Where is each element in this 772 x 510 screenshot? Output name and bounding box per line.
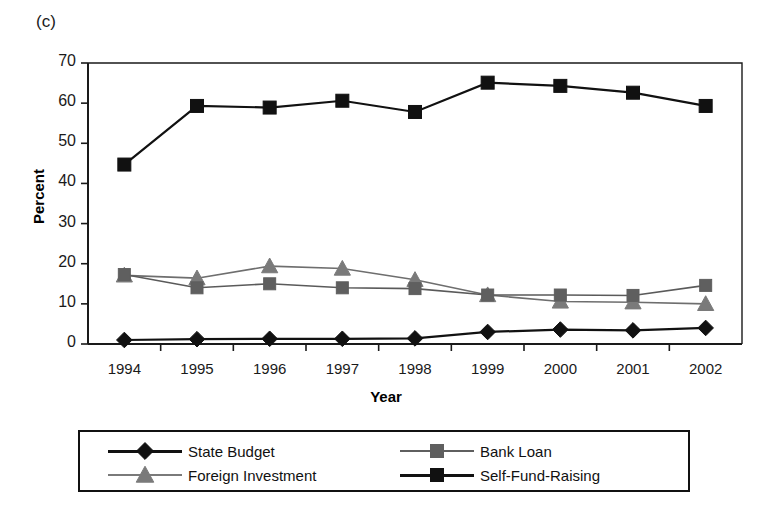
data-point-square [409, 105, 422, 118]
legend-item[interactable]: Self-Fund-Raising [400, 462, 600, 488]
x-tick-label: 1996 [240, 360, 300, 377]
data-point-square [482, 289, 494, 301]
x-tick-label: 1994 [94, 360, 154, 377]
data-point-square [627, 86, 640, 99]
x-tick-label: 1998 [385, 360, 445, 377]
legend-marker-square-icon [400, 465, 474, 485]
x-tick-label: 1995 [167, 360, 227, 377]
legend-marker-glyph [135, 441, 155, 461]
legend-marker-triangle-icon [108, 465, 182, 485]
x-tick-label: 2001 [603, 360, 663, 377]
data-point-diamond [137, 443, 154, 460]
data-point-diamond [698, 320, 714, 336]
y-tick-label: 50 [30, 132, 76, 150]
x-axis-title: Year [0, 388, 772, 405]
chart-figure: (c) Percent Year 010203040506070 1994199… [0, 0, 772, 510]
data-point-square [263, 101, 276, 114]
data-point-square [118, 158, 131, 171]
y-tick-label: 40 [30, 172, 76, 190]
data-point-triangle [262, 258, 278, 273]
legend-label: Bank Loan [480, 443, 552, 460]
data-point-diamond [553, 322, 569, 338]
y-axis-title: Percent [30, 137, 47, 257]
legend-item[interactable]: Bank Loan [400, 438, 552, 464]
y-tick-label: 30 [30, 213, 76, 231]
series-line [124, 83, 705, 165]
data-point-square [699, 99, 712, 112]
legend-marker-square-icon [400, 441, 474, 461]
y-tick-label: 60 [30, 92, 76, 110]
legend-label: State Budget [188, 443, 275, 460]
data-point-square [627, 289, 639, 301]
legend-label: Foreign Investment [188, 467, 316, 484]
series-self-fund-raising [118, 76, 712, 171]
panel-label: (c) [36, 12, 56, 32]
data-point-square [336, 282, 348, 294]
data-point-diamond [480, 324, 496, 340]
data-point-square [481, 76, 494, 89]
y-tick-label: 10 [30, 293, 76, 311]
data-point-square [336, 94, 349, 107]
legend-item[interactable]: Foreign Investment [108, 462, 316, 488]
legend-marker-glyph [135, 465, 155, 485]
data-point-diamond [117, 332, 133, 348]
data-point-square [409, 283, 421, 295]
y-tick-label: 0 [30, 333, 76, 351]
data-point-square [118, 269, 130, 281]
legend-label: Self-Fund-Raising [480, 467, 600, 484]
x-tick-label: 1999 [458, 360, 518, 377]
data-point-triangle [136, 466, 154, 482]
legend-marker-glyph [427, 441, 447, 461]
legend-marker-glyph [427, 465, 447, 485]
data-point-square [431, 469, 444, 482]
legend-marker-diamond-icon [108, 441, 182, 461]
data-point-square [191, 282, 203, 294]
data-point-square [431, 445, 444, 458]
x-tick-label: 1997 [312, 360, 372, 377]
y-tick-label: 20 [30, 253, 76, 271]
chart-legend: State BudgetBank LoanForeign InvestmentS… [78, 430, 690, 492]
data-point-square [264, 278, 276, 290]
x-tick-label: 2002 [676, 360, 736, 377]
data-point-diamond [625, 323, 641, 339]
data-point-square [554, 79, 567, 92]
legend-item[interactable]: State Budget [108, 438, 275, 464]
x-tick-label: 2000 [530, 360, 590, 377]
y-tick-label: 70 [30, 52, 76, 70]
data-point-square [700, 279, 712, 291]
data-point-square [554, 289, 566, 301]
data-point-square [191, 99, 204, 112]
